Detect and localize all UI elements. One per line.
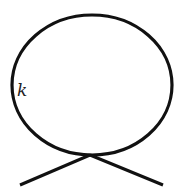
tadpole-diagram: k [0, 0, 182, 195]
external-leg-right [90, 155, 163, 185]
loop-propagator [12, 15, 172, 155]
external-leg-left [20, 155, 90, 185]
loop-momentum-label: k [17, 80, 27, 100]
